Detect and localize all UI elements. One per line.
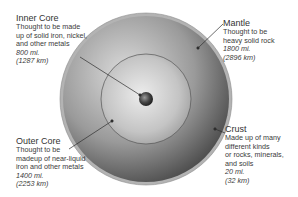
inner-core-label: Inner Core Thought to be made up of soli… (16, 13, 87, 66)
crust-thickness-km: (32 km) (225, 177, 284, 186)
outer-core-thickness-km: (2253 km) (16, 180, 86, 189)
mantle-thickness-km: (2896 km) (223, 54, 275, 63)
crust-label: Crust Made up of many different kinds or… (225, 124, 284, 186)
mantle-label: Mantle Thought to be heavy solid rock 18… (223, 18, 275, 62)
inner-core-thickness-km: (1287 km) (16, 57, 87, 66)
outer-core-label: Outer Core Thought to be madeup of near-… (16, 136, 86, 189)
